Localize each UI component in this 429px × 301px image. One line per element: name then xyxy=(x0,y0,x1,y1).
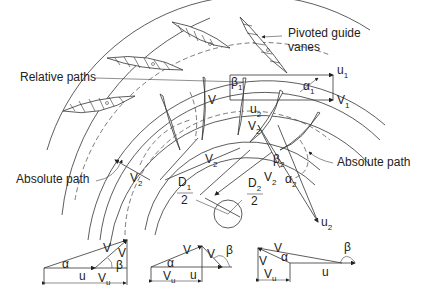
u2-bottom-symbol: u2 xyxy=(321,215,333,232)
svg-text:2: 2 xyxy=(181,193,188,207)
tri1-Vu-label: Vu xyxy=(98,271,110,287)
tri3-Vu-label: Vu xyxy=(264,267,276,283)
Vr1-symbol: V xyxy=(208,93,216,107)
tri2-Vr-label: V xyxy=(207,247,215,261)
u2-top-symbol: u2 xyxy=(250,102,262,119)
tri1-alpha-label: α xyxy=(62,257,69,271)
tri3-alpha-label: α xyxy=(281,250,288,264)
tri2-Vu-label: Vu xyxy=(163,269,175,285)
V2-right-symbol: V2 xyxy=(264,170,277,187)
relative-paths-leader xyxy=(95,78,245,82)
tri2-alpha-label: α xyxy=(167,256,174,270)
V2-top-symbol: V2 xyxy=(248,119,261,136)
velocity-triangle-2: V V α β u Vu xyxy=(151,243,233,285)
V2-mid-symbol: V2 xyxy=(205,152,218,169)
absolute-path-right-label: Absolute path xyxy=(337,155,410,169)
alpha2-symbol: α2 xyxy=(285,172,297,189)
guide-vanes-leader xyxy=(262,36,282,37)
absolute-path-left-leader xyxy=(96,160,122,181)
guide-vane xyxy=(107,57,183,71)
relative-paths-label: Relative paths xyxy=(20,70,96,84)
guide-vanes-label-1: Pivoted guide xyxy=(288,26,361,40)
velocity-triangle-3: V V α β u Vu xyxy=(258,240,355,283)
guide-vane xyxy=(63,96,135,113)
turbine-diagram: Pivoted guide vanes Relative paths Absol… xyxy=(0,0,429,301)
beta1-symbol: β1 xyxy=(231,75,243,92)
D2-half-label: D2 2 xyxy=(247,176,263,208)
guide-vane-top xyxy=(240,17,287,73)
absolute-path-right-leader xyxy=(309,152,333,163)
tri2-V-label: V xyxy=(183,243,191,257)
beta2-symbol: β2 xyxy=(273,152,285,169)
tri2-beta-label: β xyxy=(226,243,233,257)
tri3-u-label: u xyxy=(322,265,329,279)
D1-half-label: D1 2 xyxy=(177,175,193,207)
V1-symbol: V1 xyxy=(337,93,350,110)
tri3-Vr-label: V xyxy=(259,254,267,268)
tri2-u-label: u xyxy=(190,268,197,282)
tri1-beta-label: β xyxy=(116,258,123,272)
u1-symbol: u1 xyxy=(337,63,349,80)
guide-vane xyxy=(172,22,230,48)
svg-text:2: 2 xyxy=(251,194,258,208)
guide-vanes-label-2: vanes xyxy=(288,40,320,54)
tri1-u-label: u xyxy=(79,269,86,283)
tri1-V-label: V xyxy=(103,241,111,255)
svg-text:D2: D2 xyxy=(248,176,262,193)
absolute-path-left-label: Absolute path xyxy=(16,172,89,186)
guide-vanes xyxy=(63,17,287,113)
tri3-beta-label: β xyxy=(344,240,351,254)
velocity-triangle-1: V V α β u Vu xyxy=(44,240,127,287)
